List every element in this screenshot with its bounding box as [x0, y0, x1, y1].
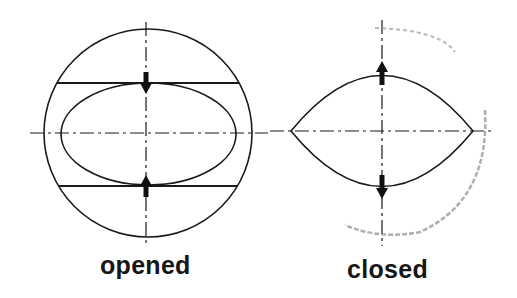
arrow-down-icon	[140, 72, 152, 94]
closed-figure	[270, 20, 495, 246]
closed-label: closed	[347, 255, 428, 284]
diagram-figure	[0, 0, 517, 298]
faint-arc-trace	[345, 110, 485, 235]
arrow-up-icon	[140, 175, 152, 197]
arrow-up-icon	[376, 61, 388, 85]
opened-figure	[30, 22, 268, 246]
faint-arc-trace	[375, 28, 455, 52]
inner-ellipse	[61, 83, 236, 185]
opened-label: opened	[100, 251, 191, 280]
diagram-canvas: opened closed	[0, 0, 517, 298]
